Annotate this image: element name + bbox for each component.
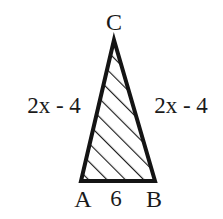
vertex-label-b: B — [146, 187, 162, 211]
left-leg-length-label: 2x - 4 — [27, 94, 81, 117]
base-length-label: 6 — [110, 187, 122, 210]
triangle-figure: C A B 6 2x - 4 2x - 4 — [0, 0, 223, 219]
vertex-label-c: C — [106, 10, 122, 34]
right-leg-length-label: 2x - 4 — [154, 94, 208, 117]
vertex-label-a: A — [74, 187, 91, 211]
